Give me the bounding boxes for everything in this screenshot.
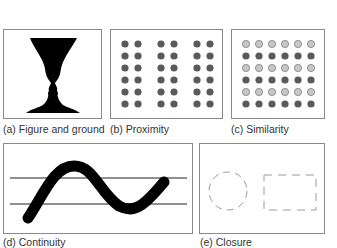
proximity-dot-grid — [111, 30, 224, 120]
panel-closure — [199, 143, 325, 234]
caption-figure-ground: (a) Figure and ground — [3, 123, 105, 135]
similarity-dot-grid — [232, 30, 326, 120]
closure-shapes-icon — [200, 144, 326, 235]
caption-closure: (e) Closure — [200, 236, 252, 248]
continuity-curve-icon — [4, 144, 194, 235]
rubin-vase-icon — [4, 30, 103, 120]
caption-similarity: (c) Similarity — [231, 123, 289, 135]
caption-proximity: (b) Proximity — [110, 123, 169, 135]
panel-figure-ground — [3, 29, 102, 119]
panel-proximity — [110, 29, 223, 119]
caption-continuity: (d) Continuity — [3, 236, 65, 248]
panel-continuity — [3, 143, 193, 234]
panel-similarity — [231, 29, 325, 119]
